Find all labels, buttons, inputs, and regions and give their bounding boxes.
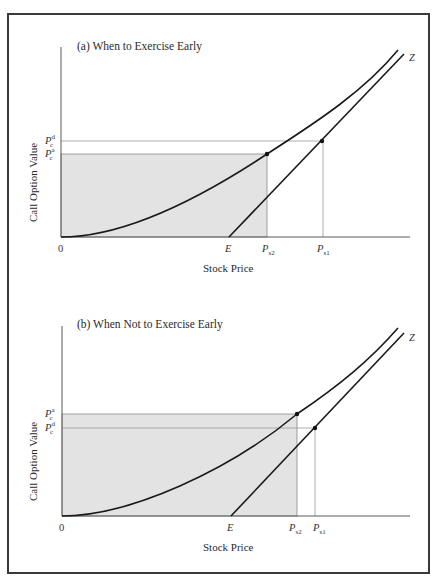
panel-b: (b) When Not to Exercise Early Z Call Op…	[27, 318, 415, 553]
point-curve-b	[295, 412, 299, 416]
z-label-a: Z	[409, 52, 415, 63]
z-label-b: Z	[409, 332, 415, 343]
panel-title-a: (a) When to Exercise Early	[77, 40, 202, 53]
x-tick-ps1-a: Ps1	[316, 243, 330, 257]
x-tick-zero-b: 0	[59, 522, 64, 533]
y-axis-label-b: Call Option Value	[27, 422, 39, 501]
y-tick-pcd-b: Pdc	[44, 420, 55, 436]
point-line-a	[320, 139, 324, 143]
x-tick-ps2-a: Ps2	[261, 243, 275, 257]
z-line-a	[229, 54, 404, 237]
y-tick-pca-a: Pac	[44, 146, 55, 162]
point-curve-a	[265, 152, 269, 156]
shaded-area-a	[61, 154, 267, 237]
x-tick-e-b: E	[226, 522, 234, 533]
x-axis-label-b: Stock Price	[203, 541, 254, 553]
x-tick-e-a: E	[224, 243, 232, 254]
shaded-area-b	[62, 414, 297, 516]
figure: (a) When to Exercise Early Z Call Option…	[0, 0, 437, 582]
x-axis-label-a: Stock Price	[203, 262, 254, 274]
x-tick-ps1-b: Ps1	[312, 522, 326, 536]
panel-a: (a) When to Exercise Early Z Call Option…	[27, 40, 415, 274]
y-axis-label-a: Call Option Value	[27, 143, 39, 222]
x-tick-zero-a: 0	[58, 243, 63, 254]
point-line-b	[313, 426, 317, 430]
panel-title-b: (b) When Not to Exercise Early	[77, 318, 223, 331]
x-tick-ps2-b: Ps2	[288, 522, 302, 536]
